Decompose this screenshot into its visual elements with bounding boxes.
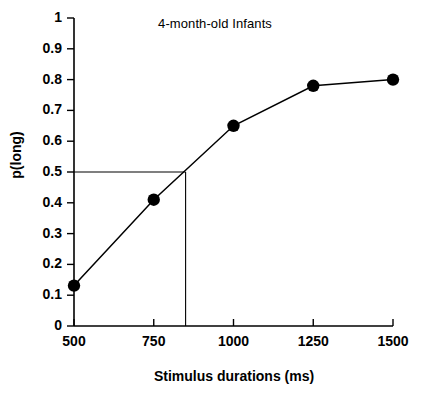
data-point-marker	[387, 73, 399, 85]
x-tick-label: 1500	[363, 333, 423, 349]
data-point-marker	[307, 80, 319, 92]
x-tick-label: 750	[124, 333, 184, 349]
x-axis-ticks	[74, 319, 393, 326]
y-tick-label: 1	[28, 9, 62, 25]
y-tick-label: 0.3	[28, 225, 62, 241]
x-axis-label: Stimulus durations (ms)	[74, 368, 394, 384]
data-point-marker	[68, 279, 80, 291]
y-tick-label: 0.8	[28, 71, 62, 87]
x-tick-label: 500	[44, 333, 104, 349]
y-axis-label: p(long)	[8, 115, 24, 195]
y-tick-label: 0	[28, 317, 62, 333]
data-point-marker	[148, 194, 160, 206]
y-tick-label: 0.9	[28, 40, 62, 56]
chart-figure: 4-month-old Infants p(long) Stimulus dur…	[0, 0, 425, 399]
data-point-markers	[68, 73, 399, 291]
data-point-marker	[227, 120, 239, 132]
x-tick-label: 1000	[204, 333, 264, 349]
bisection-point-reference	[74, 172, 186, 326]
y-tick-label: 0.5	[28, 163, 62, 179]
x-tick-label: 1250	[283, 333, 343, 349]
y-tick-label: 0.2	[28, 255, 62, 271]
y-tick-label: 0.1	[28, 286, 62, 302]
chart-title: 4-month-old Infants	[100, 16, 330, 31]
y-tick-label: 0.4	[28, 194, 62, 210]
y-tick-label: 0.7	[28, 101, 62, 117]
y-tick-label: 0.6	[28, 132, 62, 148]
data-series-line	[74, 80, 393, 286]
